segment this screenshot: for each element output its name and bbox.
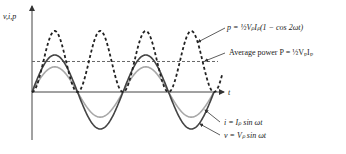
voltage-leader [200,124,220,135]
x-axis-label: t [228,88,231,97]
average-leader [205,53,225,61]
power-leader [198,28,225,42]
power-label: p = ½VₚIₚ(1 − cos 2ωt) [226,23,304,32]
voltage-label: v = Vₚ sin ωt [224,131,267,140]
current-leader [205,110,220,122]
average-label: Average power P = ½VₚIₚ [229,48,313,57]
ac-power-diagram: v,i,p t p = ½VₚIₚ(1 − cos 2ωt) Average p… [0,0,346,154]
current-label: i = Iₚ sin ωt [224,118,263,127]
y-axis-label: v,i,p [3,12,16,21]
